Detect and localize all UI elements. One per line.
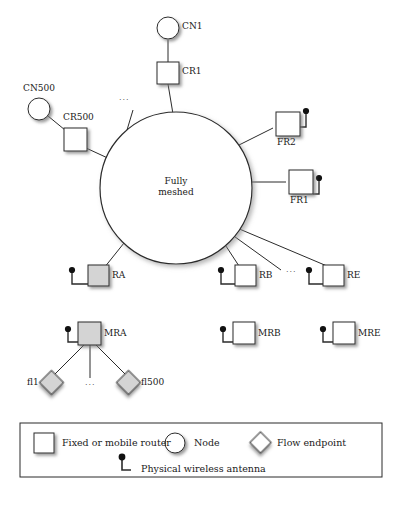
router-fr2 (276, 112, 300, 136)
antenna-icon-mre-stem (323, 331, 334, 342)
label-fl500: fl500 (141, 378, 164, 387)
node-cn1 (157, 17, 179, 39)
ellipsis-routers: ... (286, 266, 297, 274)
antenna-icon-ra-stem (72, 272, 89, 284)
label-cr500: CR500 (63, 113, 94, 122)
router-rb-group (218, 265, 256, 286)
label-ra: RA (112, 271, 125, 280)
antenna-icon-mre-dot (320, 326, 326, 332)
antenna-icon-fr1-stem (313, 180, 319, 194)
router-ra-group (69, 265, 109, 286)
network-topology-figure: Fully meshed CN1 CR1 CN500 CR500 FR2 FR1… (0, 0, 401, 508)
label-fr2: FR2 (277, 138, 296, 147)
ellipsis-core: ... (119, 94, 130, 102)
edge-core-ra (104, 243, 124, 268)
edge-mra-fl500 (95, 344, 125, 374)
router-ra (88, 265, 109, 286)
edge-cr1-core (168, 84, 173, 114)
router-mrb-group (220, 322, 255, 344)
label-re: RE (347, 271, 360, 280)
edge-mra-fl1 (55, 344, 85, 374)
router-fr1 (289, 170, 313, 194)
label-cn1: CN1 (182, 22, 203, 31)
label-fr1: FR1 (290, 196, 309, 205)
antenna-icon-re-dot (306, 267, 312, 273)
antenna-icon-mrb-stem (223, 331, 234, 342)
core-label-line2: meshed (146, 187, 206, 198)
antenna-icon-fr1-dot (316, 175, 322, 181)
antenna-icon-fr2-stem (300, 113, 306, 127)
router-re (323, 265, 344, 286)
antenna-icon-re-stem (309, 272, 324, 284)
router-mrb (233, 322, 255, 344)
legend-label-node: Node (194, 437, 220, 448)
legend-square-icon (34, 433, 54, 453)
flow-endpoint-fl1 (39, 370, 63, 394)
router-rb (235, 265, 256, 286)
label-cn500: CN500 (23, 84, 55, 93)
core-circle-label: Fully meshed (146, 176, 206, 199)
ellipsis-flows: ... (85, 379, 96, 387)
router-mra-group (65, 322, 101, 345)
antenna-icon-mra-dot (65, 326, 71, 332)
legend-label-flow: Flow endpoint (277, 437, 346, 448)
router-re-group (306, 265, 344, 286)
label-rb: RB (259, 271, 272, 280)
legend-label-antenna: Physical wireless antenna (141, 463, 266, 474)
legend-label-router: Fixed or mobile router (62, 437, 171, 448)
antenna-icon-mrb-dot (220, 326, 226, 332)
label-mrb: MRB (258, 329, 281, 338)
router-mre (333, 322, 355, 344)
label-mra: MRA (104, 329, 127, 338)
node-cn500 (28, 98, 50, 120)
antenna-icon-ra-dot (69, 267, 75, 273)
label-mre: MRE (358, 329, 381, 338)
antenna-icon-rb-dot (218, 267, 224, 273)
antenna-icon-rb-stem (221, 272, 236, 284)
router-mre-group (320, 322, 355, 344)
router-cr500 (64, 128, 87, 151)
core-label-line1: Fully (146, 176, 206, 187)
flow-endpoint-fl500 (116, 370, 140, 394)
label-cr1: CR1 (182, 67, 201, 76)
antenna-icon-mra-stem (68, 331, 79, 342)
label-fl1: fl1 (27, 378, 39, 387)
router-fr2-group (276, 108, 309, 136)
router-fr1-group (289, 170, 322, 194)
antenna-icon-fr2-dot (303, 108, 309, 114)
edge-core-re (237, 228, 327, 266)
router-cr1 (157, 62, 179, 84)
router-mra (78, 322, 101, 345)
